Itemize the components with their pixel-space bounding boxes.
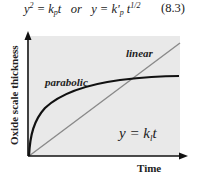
parabolic-label: parabolic	[44, 76, 88, 88]
plot-area	[29, 36, 180, 156]
oxidation-kinetics-chart: linear parabolic y = klt Time Oxide scal…	[0, 26, 197, 185]
linear-eq-main: y = k	[117, 125, 150, 141]
equation-number: (8.3)	[161, 1, 185, 16]
linear-label: linear	[126, 47, 154, 59]
y-axis-label: Oxide scale thickness	[8, 45, 20, 145]
y-axis-arrow-icon	[25, 31, 32, 40]
eq-rhs2-exp: 1/2	[130, 1, 140, 10]
rate-law-equation: y2 = kpt or y = k'p t1/2 (8.3)	[24, 1, 196, 19]
eq-lhs-exp: 2	[30, 1, 34, 10]
eq-rhs2: y = k'	[91, 2, 119, 16]
eq-or: or	[71, 2, 82, 16]
eq-rhs1-tail: t	[58, 2, 61, 16]
eq-rhs1: = k	[37, 2, 54, 16]
x-axis-arrow-icon	[179, 153, 188, 160]
x-axis-label: Time	[137, 162, 161, 174]
